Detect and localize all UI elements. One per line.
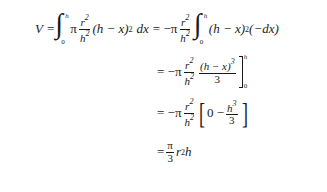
fraction: (h − x)3 3 <box>199 58 236 85</box>
bracket-close: ] <box>242 98 248 128</box>
term: (h − x) <box>209 21 245 37</box>
equals-sign: = −π <box>157 105 181 121</box>
term: (h − x) <box>92 21 128 37</box>
term: (−dx) <box>249 21 279 37</box>
fraction: r2 h2 <box>183 57 195 87</box>
term: 0 − <box>207 105 224 121</box>
equals-sign: = <box>47 21 54 37</box>
equals-sign: = −π <box>153 21 177 37</box>
fraction: π 3 <box>166 140 174 164</box>
fraction: r2 h2 <box>179 14 191 44</box>
term: h <box>185 144 192 160</box>
equation-line-3: = −π r2 h2 [ 0 − h3 3 ] <box>157 98 250 128</box>
equals-sign: = <box>157 144 164 160</box>
equation-line-2: = −π r2 h2 (h − x)3 3 h 0 <box>157 56 249 88</box>
fraction: r2 h2 <box>79 14 91 44</box>
differential: dx <box>137 21 149 37</box>
bracket-open: [ <box>199 98 205 128</box>
integral-icon: ∫ h 0 <box>195 14 207 44</box>
equation-line-1: V = ∫ h 0 π r2 h2 (h − x)2 dx = −π r2 h2… <box>35 14 279 44</box>
fraction: h3 3 <box>226 100 238 127</box>
equation-line-4: = π 3 r2 h <box>157 140 191 164</box>
volume-symbol: V <box>35 21 43 37</box>
equals-sign: = −π <box>157 64 181 80</box>
integral-icon: ∫ h 0 <box>56 14 68 44</box>
fraction: r2 h2 <box>183 98 195 128</box>
evaluation-bracket: h 0 <box>239 56 249 88</box>
pi-symbol: π <box>70 21 77 37</box>
